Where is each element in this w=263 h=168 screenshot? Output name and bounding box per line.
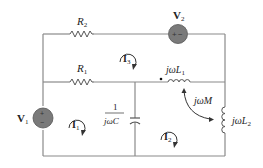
circuit-diagram: + − + − R2 R1 V2 V1 jωL1 jωL2 jωM 1 jωC … (0, 0, 263, 168)
label-capacitor-denominator: jωC (103, 116, 120, 126)
v2-plus: + (172, 30, 177, 39)
arrowhead-right-icon (209, 117, 214, 122)
label-r2: R2 (76, 15, 88, 29)
arrowhead-i2-icon (173, 142, 178, 148)
label-i3: I3 (123, 53, 131, 66)
label-mutual-m: jωM (192, 95, 213, 106)
label-i2: I2 (164, 131, 172, 144)
label-capacitor-numerator: 1 (113, 102, 118, 112)
v1-minus: − (40, 119, 44, 126)
label-l1: jωL1 (164, 64, 185, 77)
inductor-l1 (168, 80, 190, 82)
label-v1: V1 (17, 112, 29, 126)
label-v2: V2 (173, 9, 185, 23)
v1-plus: + (40, 110, 44, 117)
dot-marker-l1 (160, 78, 163, 81)
circuit-svg: + − + − R2 R1 V2 V1 jωL1 jωL2 jωM 1 jωC … (0, 0, 263, 168)
resistor-r2 (70, 31, 94, 37)
v2-minus: − (178, 30, 183, 39)
label-i1: I1 (72, 119, 80, 132)
inductor-l2 (222, 107, 225, 133)
arrowhead-up-icon (182, 88, 187, 93)
arrowhead-i3-icon (132, 64, 137, 70)
label-r1: R1 (76, 62, 88, 76)
label-l2: jωL2 (230, 115, 251, 128)
arrowhead-i1-icon (81, 130, 86, 136)
resistor-r1 (70, 79, 94, 85)
